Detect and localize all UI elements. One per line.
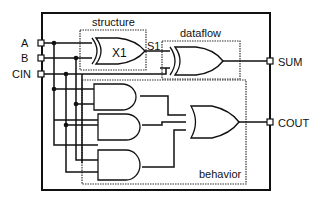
signal-label-s1: S1 [147,40,160,52]
and-gate-2 [98,114,140,140]
port-sum [267,58,273,64]
port-cin [38,71,44,77]
input-label-cin: CIN [12,68,31,80]
region-label-structure: structure [92,16,135,28]
xor-gate-dataflow [170,47,223,75]
or-gate [191,106,239,138]
full-adder-diagram: A B CIN SUM COUT structure dataflow beha… [0,0,325,205]
port-a [38,40,44,46]
output-label-cout: COUT [278,117,309,129]
input-label-b: B [21,52,28,64]
gate-label-x1: X1 [112,46,127,60]
port-b [38,55,44,61]
output-label-sum: SUM [278,56,302,68]
port-cout [267,119,273,125]
region-label-behavior: behavior [199,168,242,180]
and-gate-1 [94,84,136,110]
input-label-a: A [21,37,29,49]
and-gate-3 [98,150,140,180]
region-label-dataflow: dataflow [180,27,221,39]
